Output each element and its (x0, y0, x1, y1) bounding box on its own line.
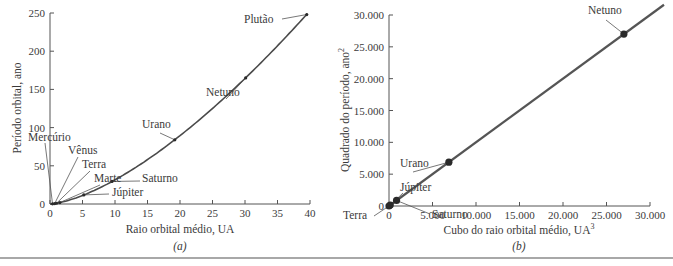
tick-labels: 0510152025303540050100150200250 (29, 7, 317, 219)
y-tick-label: 15.000 (354, 105, 385, 117)
planet-label: Urano (142, 118, 171, 130)
x-tick-label: 0 (386, 209, 392, 221)
y-tick-label: 0 (379, 200, 385, 212)
planet-label: Terra (343, 209, 367, 221)
planet-point (82, 193, 85, 196)
x-tick-label: 40 (305, 207, 317, 219)
planet-label: Terra (82, 158, 106, 170)
leader-line (397, 200, 430, 214)
figure-canvas: 0510152025303540050100150200250 Mercúrio… (0, 0, 673, 266)
planet-label: Mercúrio (28, 131, 71, 143)
y-tick-label: 20.000 (354, 73, 385, 85)
x-tick-label: 0 (47, 207, 53, 219)
planet-label: Júpiter (112, 186, 143, 199)
data-curve (50, 14, 307, 204)
leader-line (45, 143, 53, 204)
x-tick-label: 15.000 (504, 209, 535, 221)
panel-label-b: (b) (512, 240, 526, 253)
data-points (51, 13, 308, 205)
planet-label: Urano (400, 157, 429, 169)
bottom-divider (0, 257, 673, 259)
planet-label: Saturno (142, 172, 178, 184)
x-tick-label: 30 (240, 207, 252, 219)
planet-point (387, 202, 394, 209)
x-tick-label: 25.000 (591, 209, 622, 221)
planet-labels: TerraJúpiterSaturnoUranoNetuno (343, 4, 622, 221)
x-tick-label: 25 (207, 207, 219, 219)
y-tick-label: 5.000 (359, 168, 384, 180)
x-tick-label: 20 (175, 207, 187, 219)
planet-point (620, 30, 627, 37)
y-axis-title: Quadrado do período, ano2 (337, 48, 352, 172)
chart-orbital-period-vs-radius: 0510152025303540050100150200250 Mercúrio… (11, 7, 316, 253)
planet-label: Netuno (588, 4, 622, 16)
tick-marks (50, 13, 310, 204)
kepler-curve (50, 14, 307, 204)
x-axis-title: Cubo do raio orbital médio, UA3 (444, 222, 595, 237)
chart-period-squared-vs-radius-cubed: 05.00010.00015.00020.00025.00030.00005.0… (337, 4, 666, 253)
planet-label: Júpiter (400, 181, 431, 194)
y-tick-label: 30.000 (354, 9, 385, 21)
planet-label: Marte (94, 172, 121, 184)
y-tick-label: 0 (40, 198, 46, 210)
y-tick-label: 50 (34, 160, 46, 172)
y-tick-label: 25.000 (354, 41, 385, 53)
planet-point (305, 13, 308, 16)
y-tick-label: 10.000 (354, 136, 385, 148)
planet-point (244, 76, 247, 79)
planet-point (393, 197, 400, 204)
x-tick-label: 15 (142, 207, 154, 219)
planet-point (55, 202, 58, 205)
x-tick-label: 30.000 (635, 209, 666, 221)
y-tick-label: 200 (29, 45, 46, 57)
planet-label: Netuno (206, 86, 240, 98)
planet-labels: MercúrioVênusTerraMarteJúpiterSaturnoUra… (28, 13, 274, 199)
x-tick-label: 35 (272, 207, 284, 219)
y-tick-label: 150 (29, 83, 46, 95)
x-tick-label: 10 (110, 207, 122, 219)
planet-point (445, 159, 452, 166)
planet-point (58, 201, 61, 204)
y-axis-title: Período orbital, ano (11, 62, 24, 153)
panel-label-a: (a) (173, 240, 187, 253)
planet-point (173, 138, 176, 141)
axes (50, 13, 310, 204)
planet-label: Vênus (68, 144, 98, 156)
leader-line (160, 133, 175, 140)
planet-label: Saturno (432, 208, 468, 220)
x-tick-label: 20.000 (548, 209, 579, 221)
planet-label: Plutão (244, 13, 274, 25)
x-axis-title: Raio orbital médio, UA (126, 223, 235, 236)
x-tick-label: 5 (80, 207, 86, 219)
y-tick-label: 250 (29, 7, 46, 19)
